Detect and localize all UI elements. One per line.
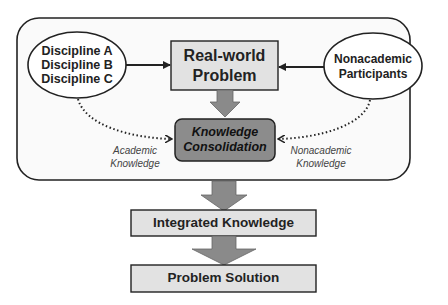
nonacademic-knowledge-label: Nonacademic Knowledge bbox=[283, 144, 359, 170]
academic-line: Academic bbox=[100, 144, 170, 157]
discipline-c: Discipline C bbox=[28, 72, 126, 86]
nonacademic-line: Nonacademic bbox=[324, 52, 422, 67]
real-world-line: Real-world bbox=[171, 46, 278, 66]
nonacademic-knowledge-line: Knowledge bbox=[283, 157, 359, 170]
academic-knowledge-label: Academic Knowledge bbox=[100, 144, 170, 170]
real-world-problem-label: Real-world Problem bbox=[171, 46, 278, 86]
disciplines-label: Discipline A Discipline B Discipline C bbox=[28, 44, 126, 86]
knowledge-line: Knowledge bbox=[175, 125, 275, 140]
discipline-b: Discipline B bbox=[28, 58, 126, 72]
problem-line: Problem bbox=[171, 66, 278, 86]
consolidation-line: Consolidation bbox=[175, 140, 275, 155]
knowledge-consolidation-label: Knowledge Consolidation bbox=[175, 125, 275, 155]
discipline-a: Discipline A bbox=[28, 44, 126, 58]
participants-line: Participants bbox=[324, 67, 422, 82]
nonacademic-participants-label: Nonacademic Participants bbox=[324, 52, 422, 82]
problem-solution-label: Problem Solution bbox=[131, 270, 316, 286]
academic-knowledge-line: Knowledge bbox=[100, 157, 170, 170]
nonacademic-kn-line: Nonacademic bbox=[283, 144, 359, 157]
integrated-knowledge-label: Integrated Knowledge bbox=[131, 215, 316, 231]
block-arrow-to-integrated bbox=[201, 181, 247, 211]
block-arrow-to-solution bbox=[192, 236, 256, 265]
